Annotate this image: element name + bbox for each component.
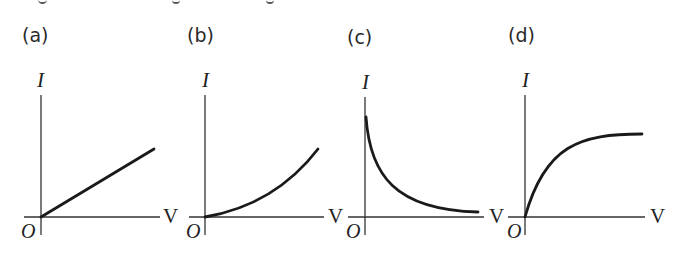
x-axis-label-b: V (328, 206, 343, 227)
panel-b-graph (189, 95, 324, 235)
origin-label-c: O (346, 221, 360, 241)
iv-curve-saturating (525, 134, 642, 217)
x-axis-label-a: V (163, 206, 178, 227)
origin-label-a: O (21, 221, 35, 241)
y-axis-label-b: I (202, 70, 209, 91)
panel-c-graph (348, 97, 484, 235)
panel-d-graph (508, 95, 645, 235)
iv-curve-concave-up (205, 149, 318, 217)
origin-label-b: O (186, 221, 200, 241)
iv-curve-decaying (366, 117, 478, 212)
panel-a-graph (24, 95, 160, 235)
y-axis-label-a: I (37, 70, 44, 91)
x-axis-label-c: V (489, 206, 504, 227)
y-axis-label-c: I (362, 72, 369, 93)
iv-graph-figure: (a) (b) (c) (d) I V O I V (0, 0, 679, 253)
x-axis-label-d: V (650, 206, 665, 227)
iv-curve-linear (41, 149, 154, 217)
origin-label-d: O (507, 221, 521, 241)
y-axis-label-d: I (522, 70, 529, 91)
